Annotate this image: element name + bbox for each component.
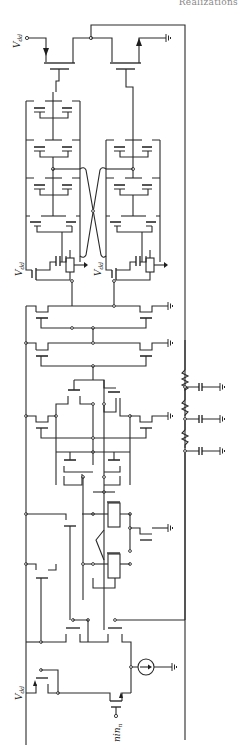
diff-stage-2 <box>25 339 173 380</box>
latch-right-column <box>106 127 160 262</box>
input-stage: ninn Vdd <box>14 619 185 742</box>
latch-left-column <box>26 92 80 262</box>
vdd-label-latch-left: Vdd <box>14 262 25 276</box>
sense-stage <box>25 491 173 640</box>
rc-ladder <box>182 340 225 620</box>
input-label: ninn <box>112 724 123 742</box>
circuit-schematic: Vdd <box>0 0 242 755</box>
ground-icon <box>166 34 171 42</box>
vdd-terminal-top <box>25 36 28 39</box>
cross-coupling <box>80 168 106 258</box>
input-terminal <box>114 714 117 717</box>
latch-bottom-right: Vdd <box>93 250 168 306</box>
vdd-label-top: Vdd <box>12 34 23 48</box>
gain-stage <box>25 380 173 630</box>
book-page: Realizations Vdd <box>0 0 242 755</box>
output-stage: Vdd <box>12 25 185 740</box>
latch-bottom-left: Vdd <box>14 250 88 306</box>
vdd-label-bottom: Vdd <box>14 686 25 700</box>
vdd-label-latch-right: Vdd <box>93 262 104 276</box>
